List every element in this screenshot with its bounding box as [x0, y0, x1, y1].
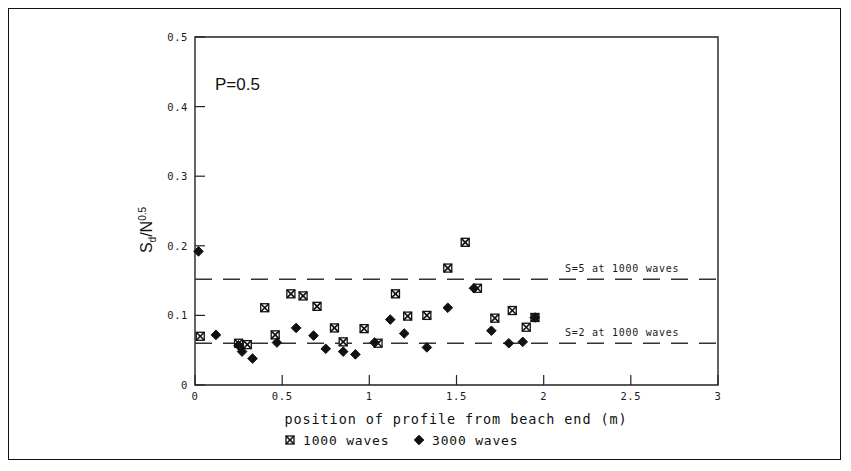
- marker-filled-diamond: [248, 354, 258, 364]
- marker-filled-diamond: [321, 344, 331, 354]
- xtick-label-3: 3: [715, 390, 722, 402]
- xtick-label-0_5: 0.5: [272, 390, 293, 402]
- ytick-label-0: 0: [181, 379, 188, 391]
- reference-label-s5: S=5 at 1000 waves: [565, 263, 679, 274]
- ytick-label-0_4: 0.4: [167, 101, 188, 113]
- y-axis-title: Sd/N0.5: [137, 206, 158, 253]
- ytick-label-0_2: 0.2: [167, 240, 188, 252]
- marker-crossed-square: [261, 304, 269, 312]
- figure-container: 0 0.1 0.2 0.3 0.4 0.5 0 0.5 1 1.5 2 2.5 …: [0, 0, 851, 471]
- scatter-plot: 0 0.1 0.2 0.3 0.4 0.5 0 0.5 1 1.5 2 2.5 …: [0, 0, 851, 471]
- marker-filled-diamond: [518, 337, 528, 347]
- marker-filled-diamond: [422, 343, 432, 353]
- marker-crossed-square: [491, 314, 499, 322]
- marker-filled-diamond: [414, 435, 424, 445]
- marker-crossed-square: [508, 307, 516, 315]
- marker-filled-diamond: [338, 347, 348, 357]
- marker-crossed-square: [391, 290, 399, 298]
- ytick-label-0_1: 0.1: [167, 309, 188, 321]
- legend-marker-1000-waves: [286, 436, 294, 444]
- xtick-label-2: 2: [540, 390, 547, 402]
- marker-crossed-square: [404, 312, 412, 320]
- x-axis-ticks: [195, 375, 718, 385]
- legend-label-3000-waves: 3000 waves: [432, 433, 518, 448]
- legend-marker-3000-waves: [414, 435, 424, 445]
- xtick-label-0: 0: [192, 390, 199, 402]
- marker-filled-diamond: [504, 338, 514, 348]
- marker-filled-diamond: [211, 330, 221, 340]
- legend-label-1000-waves: 1000 waves: [303, 433, 389, 448]
- marker-crossed-square: [286, 436, 294, 444]
- marker-crossed-square: [299, 292, 307, 300]
- marker-crossed-square: [522, 323, 530, 331]
- marker-filled-diamond: [351, 350, 361, 360]
- marker-crossed-square: [287, 290, 295, 298]
- marker-crossed-square: [423, 311, 431, 319]
- xtick-label-2_5: 2.5: [620, 390, 641, 402]
- marker-filled-diamond: [291, 323, 301, 333]
- marker-filled-diamond: [399, 329, 409, 339]
- xtick-label-1: 1: [366, 390, 373, 402]
- ytick-label-0_5: 0.5: [167, 31, 188, 43]
- legend: 1000 waves 3000 waves: [286, 433, 518, 448]
- xtick-label-1_5: 1.5: [446, 390, 467, 402]
- marker-crossed-square: [196, 332, 204, 340]
- marker-crossed-square: [243, 341, 251, 349]
- ytick-label-0_3: 0.3: [167, 170, 188, 182]
- marker-crossed-square: [313, 302, 321, 310]
- x-axis-title: position of profile from beach end (m): [284, 411, 627, 427]
- ylabel-exp: 0.5: [137, 206, 148, 220]
- ylabel-main-s: S: [138, 242, 155, 253]
- marker-filled-diamond: [309, 331, 319, 341]
- marker-crossed-square: [330, 324, 338, 332]
- reference-label-s2: S=2 at 1000 waves: [565, 327, 679, 338]
- marker-crossed-square: [339, 338, 347, 346]
- marker-crossed-square: [271, 331, 279, 339]
- marker-filled-diamond: [443, 303, 453, 313]
- marker-crossed-square: [461, 238, 469, 246]
- marker-filled-diamond: [385, 315, 395, 325]
- marker-crossed-square: [444, 264, 452, 272]
- svg-text:Sd/N0.5: Sd/N0.5: [137, 206, 158, 253]
- marker-filled-diamond: [487, 326, 497, 336]
- panel-annotation: P=0.5: [215, 75, 260, 94]
- marker-crossed-square: [360, 325, 368, 333]
- ylabel-num: /N: [138, 221, 155, 237]
